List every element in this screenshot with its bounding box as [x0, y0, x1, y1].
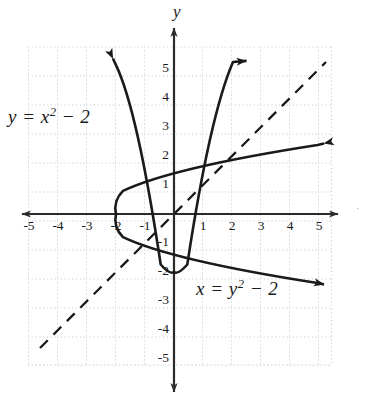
x-tick-label: 3 [247, 218, 275, 234]
y-tick-label: 2 [141, 147, 169, 163]
label-parabola-horizontal: x = y2 − 2 [196, 278, 278, 300]
label-v-rest: − 2 [62, 106, 91, 127]
y-tick-label: 4 [141, 89, 169, 105]
label-v-exponent: 2 [50, 105, 57, 119]
x-tick-label: -2 [102, 218, 130, 234]
y-tick-label: -1 [141, 234, 169, 250]
x-tick-label: 4 [276, 218, 304, 234]
y-tick-label: 1 [141, 176, 169, 192]
y-tick-label: -5 [141, 350, 169, 366]
label-h-eq: = [210, 278, 223, 299]
y-tick-label: 3 [141, 118, 169, 134]
x-tick-label: 1 [189, 218, 217, 234]
label-v-base: x [41, 106, 50, 127]
grid-background [28, 47, 332, 366]
y-tick-label: -2 [141, 263, 169, 279]
x-tick-label: 5 [305, 218, 333, 234]
x-tick-label: -4 [44, 218, 72, 234]
x-tick-label: -3 [73, 218, 101, 234]
x-tick-label: 2 [218, 218, 246, 234]
y-tick-label: -3 [141, 292, 169, 308]
x-tick-label: -5 [15, 218, 43, 234]
label-h-exponent: 2 [238, 277, 245, 291]
label-parabola-vertical: y = x2 − 2 [8, 106, 90, 128]
y-tick-label: -4 [141, 321, 169, 337]
y-tick-label: 5 [141, 60, 169, 76]
label-v-eq: = [22, 106, 35, 127]
y-axis-name: y [173, 2, 181, 22]
label-h-base: y [229, 278, 238, 299]
label-h-lhs: x [196, 278, 205, 299]
label-v-lhs: y [8, 106, 17, 127]
label-h-rest: − 2 [250, 278, 279, 299]
page-corner-mark: · [356, 206, 362, 212]
x-tick-label: -1 [131, 218, 159, 234]
graph-figure [0, 0, 365, 408]
